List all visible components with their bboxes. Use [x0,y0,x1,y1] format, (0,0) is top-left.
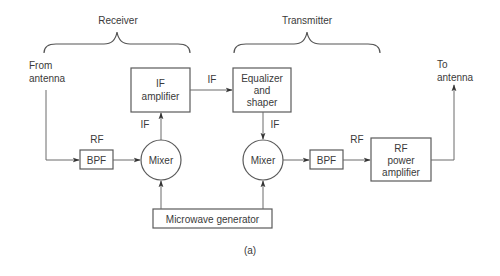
if-across-label: IF [208,74,217,85]
input-label-antenna: antenna [29,73,66,84]
rf-in-label: RF [90,134,103,145]
output-label-antenna: antenna [437,72,474,83]
rf-amp-label-1: RF [394,143,407,154]
rf-amp-label-2: power [387,155,415,166]
mixer-rx-label: Mixer [149,155,174,166]
microwave-generator-label: Microwave generator [166,214,260,225]
transmitter-label: Transmitter [282,15,333,26]
receiver-label: Receiver [98,15,138,26]
transmitter-brace [234,32,380,53]
equalizer-label-3: shaper [247,97,278,108]
bpf-rx-label: BPF [87,155,106,166]
input-label-from: From [29,60,52,71]
figure-caption: (a) [244,245,256,256]
receiver-brace [44,32,190,53]
rf-out-label: RF [350,134,363,145]
input-connector [46,90,79,160]
mixer-tx-label: Mixer [251,155,276,166]
equalizer-label-2: and [254,85,271,96]
bpf-tx-label: BPF [317,155,336,166]
equalizer-label-1: Equalizer [241,73,283,84]
rf-amp-label-3: amplifier [382,167,420,178]
if-amplifier-label-1: IF [156,78,165,89]
if-amplifier-block [131,68,190,112]
if-down-label: IF [271,119,280,130]
output-label-to: To [437,59,448,70]
microwave-relay-block-diagram: Receiver Transmitter From antenna RF BPF… [0,0,500,276]
if-amplifier-label-2: amplifier [142,91,180,102]
if-up-label: IF [141,119,150,130]
output-connector [431,85,454,160]
